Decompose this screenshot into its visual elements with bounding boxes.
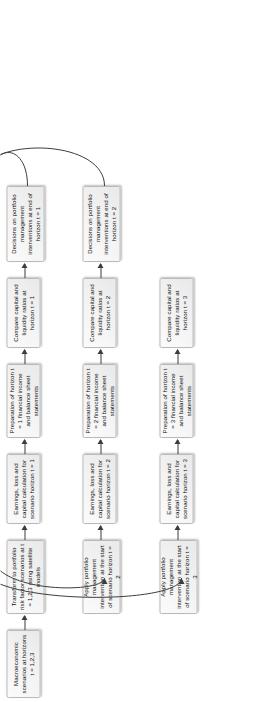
node-macro-scenarios[interactable]: Macroeconomic scenarios at horizons t = …	[6, 630, 40, 698]
node-label: Earnings, loss and capital calculation f…	[87, 458, 111, 520]
node-label: Apply portfolio management intervention …	[81, 544, 121, 610]
node-label: Macroeconomic scenarios at horizons t = …	[11, 634, 35, 694]
node-label: Preparation of horizon t = 1 financial i…	[7, 368, 39, 434]
connector-macro-to-transform-arrow	[24, 616, 25, 630]
node-label: Preparation of horizon t = 2 financial i…	[83, 368, 115, 434]
node-preparation-statements-1[interactable]: Preparation of horizon t = 1 financial i…	[6, 364, 40, 438]
connector-earnings-1-to-prep-1-arrow	[24, 440, 25, 454]
connector-prep-1-to-compare-1-arrow	[24, 350, 25, 364]
connector-apply-2-to-earnings-2-arrow	[100, 526, 101, 540]
node-decisions-interventions-2[interactable]: Decisions on portfolio management interv…	[82, 186, 120, 262]
node-label: Decisions on portfolio management interv…	[9, 190, 41, 258]
connector-compare-1-to-decisions-1-arrow	[24, 264, 25, 278]
connector-apply-3-to-earnings-3-arrow	[177, 526, 178, 540]
node-transform-risk-factors[interactable]: Transform to portfolio risk factor scena…	[6, 540, 44, 614]
node-earnings-loss-capital-1[interactable]: Earnings, loss and capital calculation f…	[6, 454, 40, 524]
connector-prep-3-to-compare-3-arrow	[177, 350, 178, 364]
node-apply-intervention-2[interactable]: Apply portfolio management intervention …	[82, 540, 120, 614]
connector-transform-to-earnings-1-arrow	[24, 526, 25, 540]
node-compare-ratios-3[interactable]: Compare capital and liquidity ratios at …	[159, 278, 193, 348]
connector-prep-2-to-compare-2-arrow	[100, 350, 101, 364]
node-label: Compare capital and liquidity ratios at …	[87, 282, 111, 344]
connector-compare-2-to-decisions-2-arrow	[100, 264, 101, 278]
connector-earnings-2-to-prep-2-arrow	[100, 440, 101, 454]
node-label: Earnings, loss and capital calculation f…	[164, 458, 188, 520]
node-apply-intervention-3[interactable]: Apply portfolio management intervention …	[159, 540, 197, 614]
node-earnings-loss-capital-2[interactable]: Earnings, loss and capital calculation f…	[82, 454, 116, 524]
node-label: Transform to portfolio risk factor scena…	[9, 544, 41, 610]
node-label: Compare capital and liquidity ratios at …	[11, 282, 35, 344]
node-compare-ratios-1[interactable]: Compare capital and liquidity ratios at …	[6, 278, 40, 348]
node-label: Compare capital and liquidity ratios at …	[164, 282, 188, 344]
node-preparation-statements-3[interactable]: Preparation of horizon t = 3 financial i…	[159, 364, 193, 438]
node-decisions-interventions-1[interactable]: Decisions on portfolio management interv…	[6, 186, 44, 262]
node-compare-ratios-2[interactable]: Compare capital and liquidity ratios at …	[82, 278, 116, 348]
node-label: Earnings, loss and capital calculation f…	[11, 458, 35, 520]
node-label: Preparation of horizon t = 3 financial i…	[160, 368, 192, 434]
node-preparation-statements-2[interactable]: Preparation of horizon t = 2 financial i…	[82, 364, 116, 438]
flow-lane-horizon-3: Apply portfolio management intervention …	[159, 0, 235, 702]
node-earnings-loss-capital-3[interactable]: Earnings, loss and capital calculation f…	[159, 454, 193, 524]
flow-lane-horizon-2: Apply portfolio management intervention …	[82, 0, 158, 702]
connector-earnings-3-to-prep-3-arrow	[177, 440, 178, 454]
flow-lane-horizon-1: Macroeconomic scenarios at horizons t = …	[6, 0, 82, 702]
node-label: Apply portfolio management intervention …	[158, 544, 198, 610]
flowchart-canvas: Macroeconomic scenarios at horizons t = …	[0, 0, 265, 702]
node-label: Decisions on portfolio management interv…	[85, 190, 117, 258]
